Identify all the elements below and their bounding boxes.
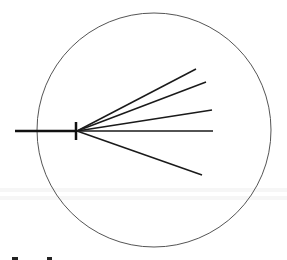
radial-diagram: [0, 0, 287, 260]
ray-line-2: [77, 82, 206, 131]
ray-group: [77, 69, 213, 175]
ray-line-5: [77, 131, 202, 175]
